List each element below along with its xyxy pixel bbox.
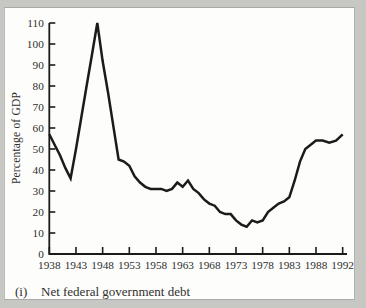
y-tick-label: 60: [33, 122, 45, 134]
x-tick-label: 1963: [171, 259, 194, 271]
caption-text: Net federal government debt: [41, 284, 190, 299]
y-tick-label: 50: [33, 143, 45, 155]
x-tick-label: 1953: [118, 259, 141, 271]
x-tick-label: 1992: [331, 259, 354, 271]
x-tick-label: 1943: [65, 259, 88, 271]
y-tick-label: 30: [33, 185, 45, 197]
debt-chart-svg: 0102030405060708090100110193819431948195…: [5, 8, 356, 301]
y-axis-title: Percentage of GDP: [10, 83, 22, 193]
y-tick-label: 90: [33, 59, 45, 71]
x-tick-label: 1958: [145, 259, 168, 271]
y-tick-label: 80: [33, 80, 45, 92]
y-tick-label: 0: [38, 248, 44, 260]
y-tick-label: 10: [33, 227, 45, 239]
y-tick-label: 100: [27, 38, 44, 50]
y-tick-label: 40: [33, 164, 45, 176]
figure-caption: (i)Net federal government debt: [15, 284, 190, 300]
y-tick-label: 70: [33, 101, 45, 113]
debt-line-series: [49, 23, 342, 227]
x-tick-label: 1988: [305, 259, 328, 271]
x-tick-label: 1938: [38, 259, 61, 271]
x-tick-label: 1948: [91, 259, 114, 271]
x-tick-label: 1978: [251, 259, 274, 271]
y-tick-label: 20: [33, 206, 45, 218]
y-tick-label: 110: [27, 17, 44, 29]
x-tick-label: 1983: [278, 259, 301, 271]
axis-lines: [49, 23, 347, 254]
x-tick-label: 1973: [225, 259, 248, 271]
axes: [49, 23, 347, 254]
x-tick-label: 1968: [198, 259, 221, 271]
figure-panel: 0102030405060708090100110193819431948195…: [4, 7, 355, 300]
caption-index: (i): [15, 284, 41, 300]
